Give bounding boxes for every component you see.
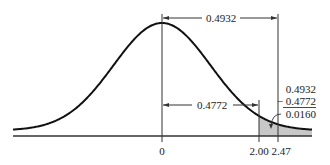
dimension-0-to-247: 0.4932 — [163, 12, 277, 24]
subtraction-calc: 0.4932 − 0.4772 0.0160 — [277, 83, 317, 120]
tick-label-200: 2.00 — [249, 145, 269, 157]
area-label-0-247: 0.4932 — [206, 12, 236, 24]
area-label-0-200: 0.4772 — [197, 99, 227, 111]
tick-label-247: 2.47 — [271, 145, 291, 157]
dimension-0-to-200: 0.4772 — [163, 99, 258, 111]
calc-result: 0.0160 — [286, 108, 317, 120]
tick-label-0: 0 — [159, 145, 165, 157]
arrowhead-left-icon — [163, 16, 169, 20]
arrowhead-right-icon — [252, 103, 258, 107]
arrowhead-left-icon — [163, 103, 169, 107]
calc-top: 0.4932 — [286, 83, 316, 95]
calc-subtrahend: − 0.4772 — [277, 95, 316, 107]
arrowhead-right-icon — [271, 16, 277, 20]
normal-distribution-diagram: 0.4932 0.4772 0.4932 − 0.4772 0.0160 0 2… — [0, 0, 330, 165]
